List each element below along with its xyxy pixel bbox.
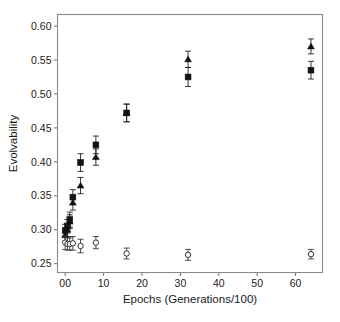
data-point-circle bbox=[70, 241, 75, 246]
evolvability-scatter-chart: 0.250.300.350.400.450.500.550.60 0010203… bbox=[0, 0, 340, 322]
data-point-circle bbox=[124, 251, 129, 256]
data-point-square bbox=[185, 74, 191, 80]
x-axis-title: Epochs (Generations/100) bbox=[123, 293, 257, 305]
x-tick-label: 60 bbox=[290, 277, 302, 289]
data-point-square bbox=[308, 67, 314, 73]
x-tick-label: 30 bbox=[175, 277, 187, 289]
x-tick-label: 00 bbox=[59, 277, 71, 289]
data-point-square bbox=[93, 142, 99, 148]
figure-root: 0.250.300.350.400.450.500.550.60 0010203… bbox=[0, 0, 340, 322]
x-tick-label: 40 bbox=[213, 277, 225, 289]
data-point-circle bbox=[78, 243, 83, 248]
x-tick-label: 20 bbox=[136, 277, 148, 289]
y-tick-label: 0.60 bbox=[31, 20, 52, 32]
x-tick-label: 10 bbox=[98, 277, 110, 289]
y-tick-label: 0.30 bbox=[31, 223, 52, 235]
x-tick-label: 50 bbox=[251, 277, 263, 289]
y-tick-label: 0.55 bbox=[31, 54, 52, 66]
y-tick-label: 0.35 bbox=[31, 189, 52, 201]
y-tick-label: 0.40 bbox=[31, 156, 52, 168]
y-tick-label: 0.25 bbox=[31, 257, 52, 269]
y-tick-label: 0.50 bbox=[31, 88, 52, 100]
y-axis-title: Evolvability bbox=[7, 114, 19, 172]
data-point-circle bbox=[308, 251, 313, 256]
data-point-circle bbox=[185, 252, 190, 257]
data-point-circle bbox=[93, 240, 98, 245]
y-tick-label: 0.45 bbox=[31, 122, 52, 134]
data-point-square bbox=[78, 160, 84, 166]
